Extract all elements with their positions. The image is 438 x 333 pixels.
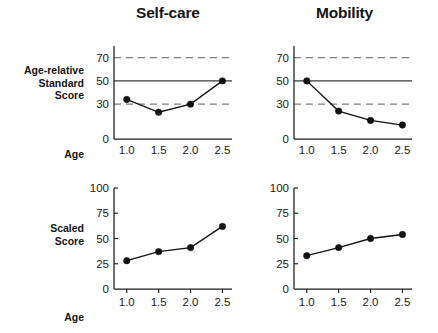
x-tick-label-2.5: 2.5	[214, 296, 230, 308]
row-label-age-relative-standard-score: Age-relative Standard Score	[0, 64, 84, 102]
data-point	[219, 223, 225, 229]
data-point	[304, 78, 310, 84]
row-label-line-1: Scaled	[0, 222, 84, 235]
x-axis-label-age-top: Age	[0, 148, 84, 160]
chart-self-care-scaled-score: 10075502501.01.52.02.5	[86, 182, 236, 317]
row-label-scaled-score: Scaled Score	[0, 222, 84, 247]
chart-canvas: 10075502501.01.52.02.5	[266, 182, 416, 317]
chart-mobility-scaled-score: 10075502501.01.52.02.5	[266, 182, 416, 317]
x-tick-label-1.5: 1.5	[151, 296, 167, 308]
row-label-line-3: Score	[0, 89, 84, 102]
data-point	[304, 252, 310, 258]
chart-canvas: 10075502501.01.52.02.5	[86, 182, 236, 317]
x-axis-label-age-bottom: Age	[0, 311, 84, 323]
row-label-line-2: Standard	[0, 77, 84, 90]
y-tick-label-75: 75	[276, 207, 289, 219]
data-point	[399, 122, 405, 128]
y-tick-label-0: 0	[103, 283, 109, 295]
row-label-line-2: Score	[0, 235, 84, 248]
chart-mobility-age-relative-standard-score: 70503001.01.52.02.5	[266, 40, 416, 165]
panel-title-mobility: Mobility	[316, 4, 373, 22]
panel-title-self-care: Self-care	[136, 4, 200, 22]
data-point	[219, 78, 225, 84]
y-tick-label-70: 70	[96, 52, 109, 64]
x-tick-label-1.0: 1.0	[299, 296, 315, 308]
y-tick-label-0: 0	[283, 133, 289, 145]
data-point	[367, 235, 373, 241]
data-point	[155, 248, 161, 254]
data-point	[335, 108, 341, 114]
x-tick-label-2.5: 2.5	[394, 144, 410, 156]
x-tick-label-2.0: 2.0	[363, 296, 379, 308]
series-line	[307, 234, 403, 255]
x-tick-label-1.5: 1.5	[151, 144, 167, 156]
chart-canvas: 70503001.01.52.02.5	[266, 40, 416, 165]
y-tick-label-50: 50	[276, 233, 289, 245]
y-tick-label-30: 30	[96, 98, 109, 110]
data-point	[124, 258, 130, 264]
y-tick-label-50: 50	[276, 75, 289, 87]
x-tick-label-1.0: 1.0	[119, 144, 135, 156]
data-point	[155, 109, 161, 115]
data-point	[399, 231, 405, 237]
y-tick-label-50: 50	[96, 233, 109, 245]
y-tick-label-30: 30	[276, 98, 289, 110]
x-tick-label-2.0: 2.0	[363, 144, 379, 156]
x-tick-label-2.0: 2.0	[183, 144, 199, 156]
y-tick-label-70: 70	[276, 52, 289, 64]
series-line	[127, 81, 223, 112]
y-tick-label-25: 25	[276, 258, 289, 270]
data-point	[367, 117, 373, 123]
data-point	[187, 101, 193, 107]
y-tick-label-0: 0	[103, 133, 109, 145]
x-tick-label-1.5: 1.5	[331, 296, 347, 308]
x-tick-label-2.0: 2.0	[183, 296, 199, 308]
data-point	[124, 96, 130, 102]
y-tick-label-0: 0	[283, 283, 289, 295]
figure-root: Self-care Mobility Age-relative Standard…	[0, 0, 438, 333]
y-tick-label-100: 100	[270, 182, 289, 194]
x-tick-label-2.5: 2.5	[214, 144, 230, 156]
y-tick-label-100: 100	[90, 182, 109, 194]
x-tick-label-1.5: 1.5	[331, 144, 347, 156]
y-tick-label-50: 50	[96, 75, 109, 87]
x-tick-label-1.0: 1.0	[119, 296, 135, 308]
y-tick-label-75: 75	[96, 207, 109, 219]
chart-self-care-age-relative-standard-score: 70503001.01.52.02.5	[86, 40, 236, 165]
data-point	[187, 244, 193, 250]
x-tick-label-1.0: 1.0	[299, 144, 315, 156]
y-tick-label-25: 25	[96, 258, 109, 270]
data-point	[335, 244, 341, 250]
row-label-line-1: Age-relative	[0, 64, 84, 77]
chart-canvas: 70503001.01.52.02.5	[86, 40, 236, 165]
series-line	[127, 226, 223, 260]
series-line	[307, 81, 403, 125]
x-tick-label-2.5: 2.5	[394, 296, 410, 308]
